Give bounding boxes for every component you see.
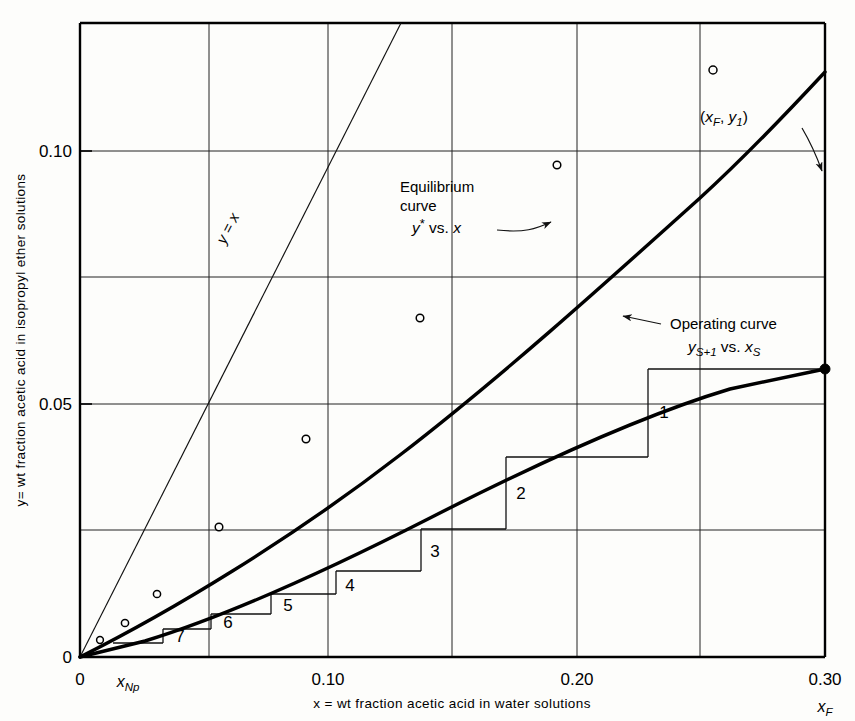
data-point (553, 161, 561, 169)
equilibrium-label-line2: curve (400, 197, 437, 214)
y-tick-label-0.10: 0.10 (39, 142, 72, 161)
step-number-2: 2 (516, 484, 525, 503)
y-tick-label-0.05: 0.05 (39, 395, 72, 414)
diagonal-y-equals-x-line (80, 23, 401, 657)
equilibrium-data-points (97, 66, 717, 643)
x-axis-title: x = wt fraction acetic acid in water sol… (313, 696, 591, 711)
step-number-3: 3 (430, 542, 439, 561)
equilibrium-label-line1: Equilibrium (400, 178, 474, 195)
y-tick-label-0: 0 (63, 648, 72, 667)
diagonal-label: y = x (212, 210, 242, 248)
data-point (709, 66, 717, 74)
operating-label-arrow (623, 316, 661, 324)
op-vs: vs. (717, 338, 745, 355)
figure-canvas: 0.10 0.05 0 0 0.10 0.20 0.30 xNp xF x = … (0, 0, 855, 721)
y-axis-title: y= wt fraction acetic acid in isopropyl … (13, 173, 28, 506)
x-label-xF-sub: F (825, 706, 833, 718)
stage-staircase (113, 369, 825, 643)
feed-point-arrow (802, 128, 822, 171)
operating-label-line1: Operating curve (670, 315, 777, 332)
eq-vs: vs. (425, 219, 453, 236)
extraction-stage-diagram: 0.10 0.05 0 0 0.10 0.20 0.30 xNp xF x = … (0, 0, 855, 721)
x-label-xNp: xNp (116, 673, 140, 693)
x-label-xF: xF (816, 698, 833, 718)
data-point (302, 435, 310, 443)
data-point (153, 590, 160, 597)
feed-point-label: (xF, y1) (700, 108, 748, 128)
x-tick-label-0.10: 0.10 (311, 670, 344, 689)
x-label-xNp-sub: Np (125, 681, 140, 693)
step-number-5: 5 (283, 596, 292, 615)
op-y-sub: S+1 (696, 346, 717, 358)
data-point (121, 619, 128, 626)
feed-point-marker (820, 364, 830, 374)
step-number-7: 7 (175, 627, 184, 646)
op-x-sub: S (753, 346, 761, 358)
x-tick-label-0.30: 0.30 (808, 670, 841, 689)
x-tick-label-0: 0 (75, 670, 84, 689)
fp-close: ) (743, 108, 748, 125)
step-number-4: 4 (345, 576, 354, 595)
data-point (215, 523, 223, 531)
step-number-1: 1 (659, 403, 668, 422)
fp-comma: , (720, 108, 729, 125)
eq-x-var: x (452, 219, 462, 236)
data-point (416, 314, 424, 322)
data-point (97, 637, 104, 644)
step-number-6: 6 (223, 613, 232, 632)
x-tick-label-0.20: 0.20 (560, 670, 593, 689)
equilibrium-label-line3: y* vs. x (411, 216, 462, 236)
equilibrium-label-arrow (497, 222, 551, 231)
